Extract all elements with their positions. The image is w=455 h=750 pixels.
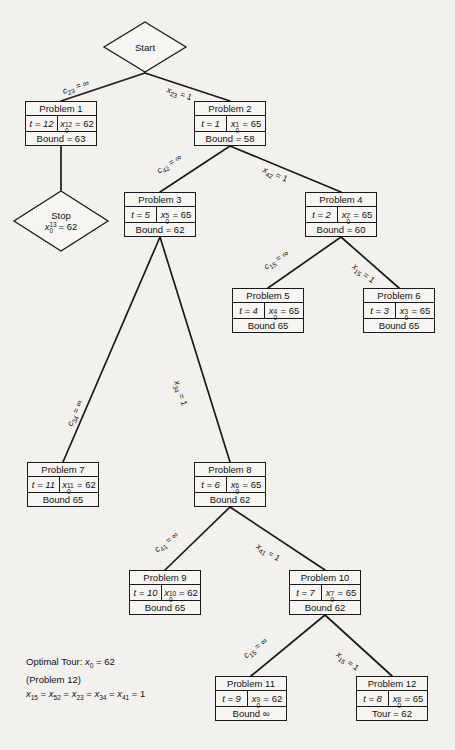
node-bound: Bound = 62 bbox=[125, 223, 195, 237]
node-x-val: = 65 bbox=[172, 209, 191, 220]
node-title: Problem 12 bbox=[357, 677, 427, 691]
node-t-value: t = 10 bbox=[130, 585, 162, 600]
node-title: Problem 10 bbox=[290, 571, 360, 585]
node-x-cell: x 10 0 = 62 bbox=[162, 585, 200, 600]
node-t-value: t = 3 bbox=[364, 303, 396, 318]
node-x-sub: 0 bbox=[169, 592, 173, 607]
node-bound: Bound 65 bbox=[28, 493, 98, 507]
edge-p2-p4 bbox=[230, 146, 341, 192]
node-bound: Bound = 63 bbox=[26, 132, 96, 146]
node-title: Problem 7 bbox=[28, 463, 98, 477]
node-bound: Bound 65 bbox=[233, 319, 303, 333]
node-problem-11[interactable]: Problem 11 t = 9 x 9 0 = 62 Bound ∞ bbox=[215, 676, 287, 721]
node-x-sub: 0 bbox=[404, 310, 408, 325]
node-problem-9[interactable]: Problem 9 t = 10 x 10 0 = 62 Bound 65 bbox=[129, 570, 201, 615]
node-x-sub: 0 bbox=[256, 698, 260, 713]
node-title: Problem 3 bbox=[125, 193, 195, 207]
node-bound: Bound 65 bbox=[364, 319, 434, 333]
node-x-val: = 62 bbox=[75, 118, 94, 129]
node-t-value: t = 6 bbox=[195, 477, 227, 492]
node-title: Problem 8 bbox=[195, 463, 265, 477]
node-problem-6[interactable]: Problem 6 t = 3 x 3 0 = 65 Bound 65 bbox=[363, 288, 435, 333]
node-bound: Bound ∞ bbox=[216, 707, 286, 721]
node-x-sub: 0 bbox=[65, 123, 69, 138]
node-x-cell: x 6 0 = 65 bbox=[227, 477, 265, 492]
node-title: Problem 4 bbox=[306, 193, 376, 207]
node-problem-10[interactable]: Problem 10 t = 7 x 7 0 = 65 Bound 62 bbox=[289, 570, 361, 615]
caption-line-1: Optimal Tour: x0 = 62 bbox=[26, 655, 145, 673]
node-problem-12[interactable]: Problem 12 t = 8 x 8 0 = 65 Tour = 62 bbox=[356, 676, 428, 721]
node-x-val: = 65 bbox=[337, 587, 356, 598]
start-label: Start bbox=[135, 42, 155, 53]
node-problem-5[interactable]: Problem 5 t = 4 x 4 0 = 65 Bound 65 bbox=[232, 288, 304, 333]
node-x-val: = 62 bbox=[179, 587, 198, 598]
node-x-sub: 0 bbox=[165, 214, 169, 229]
node-bound: Bound 65 bbox=[130, 601, 200, 615]
node-bound: Bound = 58 bbox=[195, 132, 265, 146]
stop-value: x 13 0 = 62 bbox=[45, 221, 78, 233]
node-title: Problem 6 bbox=[364, 289, 434, 303]
node-x-cell: x 12 0 = 62 bbox=[58, 116, 96, 131]
node-x-cell: x 1 0 = 65 bbox=[227, 116, 265, 131]
node-x-sub: 0 bbox=[67, 484, 71, 499]
node-t-value: t = 11 bbox=[28, 477, 60, 492]
edge-p3-p7 bbox=[63, 237, 160, 462]
node-t-value: t = 1 bbox=[195, 116, 227, 131]
node-x-cell: x 3 0 = 65 bbox=[396, 303, 434, 318]
node-x-cell: x 4 0 = 65 bbox=[265, 303, 303, 318]
node-x-val: = 65 bbox=[404, 693, 423, 704]
node-problem-3[interactable]: Problem 3 t = 5 x 5 0 = 65 Bound = 62 bbox=[124, 192, 196, 237]
node-x-sub: 0 bbox=[397, 698, 401, 713]
node-x-cell: x 7 0 = 65 bbox=[322, 585, 360, 600]
node-t-value: t = 5 bbox=[125, 207, 157, 222]
node-t-value: t = 4 bbox=[233, 303, 265, 318]
node-x-val: = 65 bbox=[242, 479, 261, 490]
node-t-value: t = 9 bbox=[216, 691, 248, 706]
stop-node: Stop x 13 0 = 62 bbox=[13, 190, 109, 252]
edge-p3-p8 bbox=[160, 237, 230, 462]
node-t-value: t = 7 bbox=[290, 585, 322, 600]
node-title: Problem 9 bbox=[130, 571, 200, 585]
node-x-cell: x 9 0 = 62 bbox=[248, 691, 286, 706]
node-title: Problem 5 bbox=[233, 289, 303, 303]
node-x-cell: x 11 0 = 62 bbox=[60, 477, 98, 492]
node-x-sub: 0 bbox=[273, 310, 277, 325]
node-x-cell: x 2 0 = 65 bbox=[338, 207, 376, 222]
node-problem-2[interactable]: Problem 2 t = 1 x 1 0 = 65 Bound = 58 bbox=[194, 101, 266, 146]
node-x-sub: 0 bbox=[235, 484, 239, 499]
start-node: Start bbox=[103, 21, 187, 73]
node-x-cell: x 8 0 = 65 bbox=[389, 691, 427, 706]
node-x-sub: 0 bbox=[235, 123, 239, 138]
node-t-value: t = 8 bbox=[357, 691, 389, 706]
node-bound: Bound 62 bbox=[195, 493, 265, 507]
node-title: Problem 1 bbox=[26, 102, 96, 116]
node-x-val: = 65 bbox=[280, 305, 299, 316]
node-problem-1[interactable]: Problem 1 t = 12 x 12 0 = 62 Bound = 63 bbox=[25, 101, 97, 146]
edge-sub: 34 bbox=[172, 385, 181, 394]
stop-x-sub: 0 bbox=[49, 225, 53, 236]
node-bound: Tour = 62 bbox=[357, 707, 427, 721]
node-x-sub: 0 bbox=[330, 592, 334, 607]
node-title: Problem 2 bbox=[195, 102, 265, 116]
caption-line-2: (Problem 12) bbox=[26, 673, 145, 687]
node-bound: Bound = 60 bbox=[306, 223, 376, 237]
node-problem-8[interactable]: Problem 8 t = 6 x 6 0 = 65 Bound 62 bbox=[194, 462, 266, 507]
node-title: Problem 11 bbox=[216, 677, 286, 691]
node-bound: Bound 62 bbox=[290, 601, 360, 615]
node-problem-4[interactable]: Problem 4 t = 2 x 2 0 = 65 Bound = 60 bbox=[305, 192, 377, 237]
node-x-sub: 0 bbox=[346, 214, 350, 229]
node-x-val: = 65 bbox=[353, 209, 372, 220]
stop-x-val: = 62 bbox=[58, 221, 77, 232]
node-x-cell: x 5 0 = 65 bbox=[157, 207, 195, 222]
node-t-value: t = 12 bbox=[26, 116, 58, 131]
node-x-val: = 65 bbox=[411, 305, 430, 316]
node-x-val: = 65 bbox=[242, 118, 261, 129]
node-x-val: = 62 bbox=[263, 693, 282, 704]
node-t-value: t = 2 bbox=[306, 207, 338, 222]
optimal-tour-caption: Optimal Tour: x0 = 62 (Problem 12) x15 =… bbox=[26, 655, 145, 705]
node-x-val: = 62 bbox=[77, 479, 96, 490]
caption-line-3: x15 = x52 = x23 = x34 = x41 = 1 bbox=[26, 687, 145, 705]
node-problem-7[interactable]: Problem 7 t = 11 x 11 0 = 62 Bound 65 bbox=[27, 462, 99, 507]
